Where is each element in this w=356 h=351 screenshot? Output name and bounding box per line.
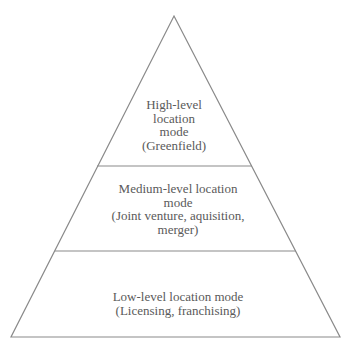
tier-medium-line-3: (Joint venture, aquisition, — [98, 209, 258, 223]
tier-high-level-label: High-level location mode (Greenfield) — [124, 98, 224, 152]
tier-medium-level-label: Medium-level location mode (Joint ventur… — [98, 182, 258, 236]
tier-low-line-2: (Licensing, franchising) — [98, 304, 258, 318]
tier-high-line-4: (Greenfield) — [124, 139, 224, 153]
tier-medium-line-2: mode — [98, 196, 258, 210]
tier-low-line-1: Low-level location mode — [98, 290, 258, 304]
tier-medium-line-1: Medium-level location — [98, 182, 258, 196]
tier-low-level-label: Low-level location mode (Licensing, fran… — [98, 290, 258, 317]
tier-high-line-2: location — [124, 112, 224, 126]
tier-high-line-3: mode — [124, 125, 224, 139]
tier-high-line-1: High-level — [124, 98, 224, 112]
tier-medium-line-4: merger) — [98, 223, 258, 237]
